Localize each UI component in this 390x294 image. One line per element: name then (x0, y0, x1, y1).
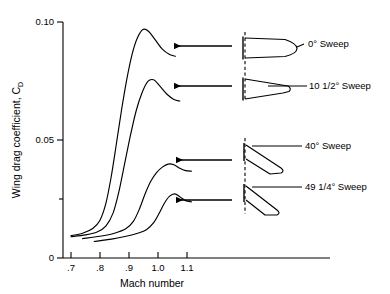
wing-planform-icon-0deg (243, 37, 297, 60)
callout-arrows (175, 46, 232, 200)
y-tick-label-0: 0.10 (36, 16, 55, 27)
y-tick-label-2: 0 (49, 252, 54, 263)
y-axis-title: Wing drag coefficient, CD (10, 82, 24, 198)
curve-0-sweep (71, 29, 175, 235)
y-tick-labels: 0.10 0.05 0 (36, 16, 55, 263)
sweep-label-10_5deg: 10 1/2° Sweep (309, 80, 371, 91)
y-axis-title-main: Wing drag coefficient, C (10, 86, 22, 198)
y-axis (57, 22, 63, 258)
x-tick-label-4: 1.1 (180, 262, 193, 273)
sweep-label-49_25deg: 49 1/4° Sweep (305, 181, 367, 192)
x-axis (63, 252, 330, 258)
sweep-label-40deg: 40° Sweep (305, 140, 351, 151)
x-tick-label-0: .7 (67, 262, 75, 273)
x-tick-label-2: .9 (125, 262, 133, 273)
wing-planform-icon-10_5deg (243, 78, 290, 101)
x-tick-label-1: .8 (96, 262, 104, 273)
drag-rise-chart: 0.10 0.05 0 .7 .8 .9 1.0 1.1 Mach number… (0, 0, 390, 294)
curve-40-sweep (83, 164, 192, 239)
wing-planform-icon-49_25deg (244, 184, 279, 215)
x-tick-label-3: 1.0 (151, 262, 164, 273)
sweep-label-0deg: 0° Sweep (308, 38, 349, 49)
x-axis-title: Mach number (120, 277, 185, 289)
leader-lines (252, 44, 307, 187)
svg-text:Wing drag coefficient, CD: Wing drag coefficient, CD (10, 82, 24, 198)
y-tick-label-1: 0.05 (36, 134, 55, 145)
x-tick-labels: .7 .8 .9 1.0 1.1 (67, 262, 194, 273)
figure-root: 0.10 0.05 0 .7 .8 .9 1.0 1.1 Mach number… (0, 0, 390, 294)
curve-group (71, 29, 191, 241)
wing-planform-icon-40deg (244, 143, 283, 174)
curve-10-1-2-sweep (71, 79, 180, 236)
y-axis-title-sub: D (17, 82, 24, 87)
leader-0deg (297, 44, 304, 47)
